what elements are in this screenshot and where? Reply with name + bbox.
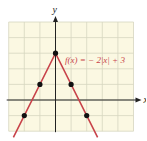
function-graph: y x f(x) = − 2|x| + 3	[0, 0, 146, 141]
x-axis-label: x	[143, 94, 147, 105]
data-point	[22, 113, 27, 118]
data-point	[37, 82, 42, 87]
data-point	[84, 113, 89, 118]
grid	[9, 22, 134, 131]
data-point	[69, 82, 74, 87]
y-axis-arrow-icon	[53, 16, 58, 22]
function-label: f(x) = − 2|x| + 3	[65, 55, 125, 65]
y-axis-label: y	[52, 4, 58, 15]
data-point	[53, 51, 58, 56]
x-axis-arrow-icon	[136, 98, 142, 103]
